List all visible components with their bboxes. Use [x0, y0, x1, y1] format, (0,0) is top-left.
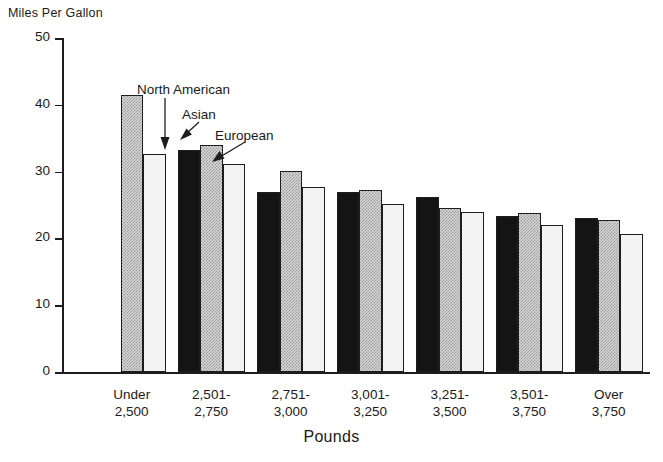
y-tick-30 [55, 172, 62, 174]
bar-asian-3-001-3-250 [359, 190, 382, 372]
bar-north-american-3-251-3-500 [416, 197, 439, 372]
y-tick-40 [55, 105, 62, 107]
bar-asian-3-501-3-750 [518, 213, 541, 372]
y-tick-label-10: 10 [10, 296, 50, 311]
annotation-label-european: European [215, 128, 274, 143]
bar-asian-2-501-2-750 [200, 145, 223, 372]
bar-asian-3-251-3-500 [439, 208, 462, 372]
x-category-label-6: Over3,750 [557, 386, 661, 420]
bar-european-3-251-3-500 [461, 212, 484, 372]
x-axis-line [62, 372, 650, 374]
bar-european-under-2-500 [143, 154, 166, 372]
bar-european-3-001-3-250 [382, 204, 405, 372]
y-tick-label-20: 20 [10, 229, 50, 244]
bar-north-american-3-501-3-750 [496, 216, 519, 372]
bar-asian-2-751-3-000 [280, 171, 303, 372]
bar-chart: Miles Per Gallon 01020304050 Under2,5002… [0, 0, 663, 462]
y-tick-label-30: 30 [10, 163, 50, 178]
bar-asian-under-2-500 [121, 95, 144, 372]
bar-north-american-3-001-3-250 [337, 192, 360, 372]
y-tick-label-40: 40 [10, 96, 50, 111]
annotation-label-asian: Asian [182, 107, 216, 122]
y-axis-title: Miles Per Gallon [8, 6, 103, 20]
y-axis-line [62, 38, 64, 372]
bar-north-american-over-3-750 [575, 218, 598, 372]
y-tick-50 [55, 38, 62, 40]
y-tick-20 [55, 238, 62, 240]
y-tick-10 [55, 305, 62, 307]
bar-european-2-751-3-000 [302, 187, 325, 372]
bar-european-2-501-2-750 [223, 164, 246, 372]
y-tick-label-50: 50 [10, 29, 50, 44]
x-axis-title: Pounds [0, 428, 663, 446]
y-tick-0 [55, 372, 62, 374]
y-tick-label-0: 0 [10, 363, 50, 378]
bar-european-over-3-750 [620, 234, 643, 372]
annotation-label-north-american: North American [137, 82, 230, 97]
bar-asian-over-3-750 [598, 220, 621, 372]
bar-european-3-501-3-750 [541, 225, 564, 372]
x-category-line-2: 3,750 [557, 403, 661, 420]
x-category-line-1: Over [557, 386, 661, 403]
bar-north-american-2-501-2-750 [178, 150, 201, 372]
bar-north-american-2-751-3-000 [257, 192, 280, 372]
